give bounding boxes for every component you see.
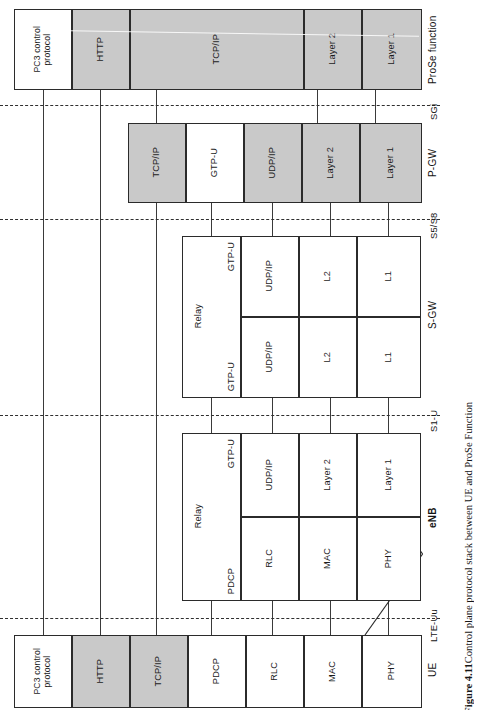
enb-label-mac: MAC	[322, 548, 332, 569]
enb-box-rlc[interactable]: RLC	[241, 517, 299, 601]
sgw-box-gtpu-lower[interactable]: GTP-U	[182, 317, 241, 398]
sgw-label-l1-lower: L1	[383, 352, 393, 363]
stack-sgw: Relay GTP-U GTP-U UDP/IP L2 L1 UDP/IP L2	[182, 236, 419, 398]
sgw-box-gtpu-upper[interactable]: GTP-U	[182, 236, 241, 317]
connector-tcpip-prose-pgw	[156, 90, 157, 123]
prose-box-tcpip[interactable]: TCP/IP	[130, 9, 304, 90]
node-label-pgw: P-GW	[427, 128, 438, 198]
sgw-label-gtpu-lower: GTP-U	[226, 362, 236, 391]
enb-label-rlc: RLC	[264, 549, 274, 568]
pgw-label-layer2: Layer 2	[325, 147, 335, 179]
connector-http	[100, 90, 101, 635]
connector-pc3	[43, 90, 44, 635]
enb-box-gtpu[interactable]: GTP-U	[182, 433, 241, 517]
sgw-box-l1-lower[interactable]: L1	[357, 317, 421, 398]
ue-label-tcpip: TCP/IP	[153, 656, 163, 687]
figure-caption-text: Control plane protocol stack between UE …	[463, 402, 474, 663]
sgw-box-l2-lower[interactable]: L2	[299, 317, 357, 398]
pgw-label-udpip: UDP/IP	[267, 147, 277, 179]
sgw-label-l2-lower: L2	[322, 352, 332, 363]
pgw-label-tcpip: TCP/IP	[151, 147, 161, 178]
enb-box-layer2[interactable]: Layer 2	[299, 433, 357, 517]
interface-line-s5s8	[0, 219, 440, 220]
enb-box-udpip[interactable]: UDP/IP	[241, 433, 299, 517]
ue-box-pdcp[interactable]: PDCP	[188, 635, 246, 708]
sgw-box-l1-upper[interactable]: L1	[357, 236, 421, 317]
prose-box-http[interactable]: HTTP	[72, 9, 130, 90]
sgw-label-udpip-lower: UDP/IP	[264, 341, 274, 373]
pgw-label-gtpu: GTP-U	[209, 148, 219, 177]
enb-box-pdcp[interactable]: PDCP	[182, 517, 241, 601]
prose-label-layer2: Layer 2	[327, 33, 337, 65]
enb-label-layer2: Layer 2	[322, 459, 332, 491]
enb-box-layer1[interactable]: Layer 1	[357, 433, 421, 517]
connector-layer2-prose-pgw	[317, 90, 318, 123]
node-label-sgw: S-GW	[427, 280, 438, 350]
stack-pgw: TCP/IP GTP-U UDP/IP Layer 2 Layer 1	[128, 123, 419, 203]
ue-label-mac: MAC	[327, 661, 337, 682]
sgw-box-l2-upper[interactable]: L2	[299, 236, 357, 317]
pgw-box-layer2[interactable]: Layer 2	[302, 123, 360, 203]
interface-label-s5s8: S5/S8	[428, 203, 439, 239]
ue-label-pc3: PC3 control protocol	[33, 648, 52, 695]
stack-prose-function: PC3 control protocol HTTP TCP/IP Layer 2…	[14, 9, 419, 90]
interface-label-sgi: SGi	[428, 92, 439, 120]
ue-box-rlc[interactable]: RLC	[246, 635, 304, 708]
prose-label-pc3: PC3 control protocol	[33, 26, 52, 73]
pgw-label-layer1: Layer 1	[385, 147, 395, 179]
node-label-prose: ProSe function	[427, 9, 438, 90]
enb-label-phy: PHY	[383, 549, 393, 568]
enb-label-pdcp: PDCP	[226, 568, 236, 594]
figure-number: Figure 4.11	[463, 663, 474, 710]
prose-box-layer2[interactable]: Layer 2	[304, 9, 362, 90]
prose-label-tcpip: TCP/IP	[211, 34, 221, 65]
stack-ue: PC3 control protocol HTTP TCP/IP PDCP RL…	[14, 635, 419, 708]
sgw-label-l1-upper: L1	[383, 271, 393, 282]
prose-label-layer1: Layer 1	[386, 33, 396, 65]
ue-label-pdcp: PDCP	[211, 658, 221, 684]
figure-canvas: PC3 control protocol HTTP TCP/IP Layer 2…	[0, 0, 477, 710]
node-label-enb: eNB	[427, 490, 438, 546]
connector-layer1-prose-pgw	[375, 90, 376, 123]
prose-box-layer1[interactable]: Layer 1	[362, 9, 422, 90]
enb-label-layer1: Layer 1	[383, 459, 393, 491]
ue-box-http[interactable]: HTTP	[72, 635, 130, 708]
sgw-label-udpip-upper: UDP/IP	[264, 260, 274, 292]
enb-label-gtpu: GTP-U	[226, 439, 236, 468]
interface-label-s1u: S1-U	[428, 398, 439, 432]
ue-box-pc3[interactable]: PC3 control protocol	[14, 635, 72, 708]
sgw-label-gtpu-upper: GTP-U	[226, 242, 236, 271]
ue-box-phy[interactable]: PHY	[362, 635, 422, 708]
enb-box-mac[interactable]: MAC	[299, 517, 357, 601]
figure-caption: Figure 4.11Control plane protocol stack …	[463, 402, 474, 710]
interface-label-lteuu: LTE-Uu	[428, 594, 439, 642]
ue-box-mac[interactable]: MAC	[304, 635, 362, 708]
prose-box-pc3[interactable]: PC3 control protocol	[14, 9, 72, 90]
interface-line-s1u	[0, 415, 440, 416]
ue-label-rlc: RLC	[269, 662, 279, 681]
node-label-ue: UE	[427, 650, 438, 690]
prose-label-http: HTTP	[95, 37, 105, 62]
interface-line-sgi	[0, 105, 440, 106]
sgw-box-udpip-upper[interactable]: UDP/IP	[241, 236, 299, 317]
pgw-box-gtpu[interactable]: GTP-U	[186, 123, 244, 203]
pgw-box-tcpip[interactable]: TCP/IP	[128, 123, 186, 203]
pgw-box-layer1[interactable]: Layer 1	[360, 123, 422, 203]
enb-label-udpip: UDP/IP	[264, 459, 274, 491]
enb-box-phy[interactable]: PHY	[357, 517, 421, 601]
pgw-box-udpip[interactable]: UDP/IP	[244, 123, 302, 203]
ue-label-phy: PHY	[386, 661, 396, 680]
ue-box-tcpip[interactable]: TCP/IP	[130, 635, 188, 708]
stack-enb: Relay GTP-U PDCP UDP/IP Layer 2 Layer 1 …	[182, 433, 419, 601]
sgw-label-l2-upper: L2	[322, 271, 332, 282]
ue-label-http: HTTP	[95, 659, 105, 684]
sgw-box-udpip-lower[interactable]: UDP/IP	[241, 317, 299, 398]
